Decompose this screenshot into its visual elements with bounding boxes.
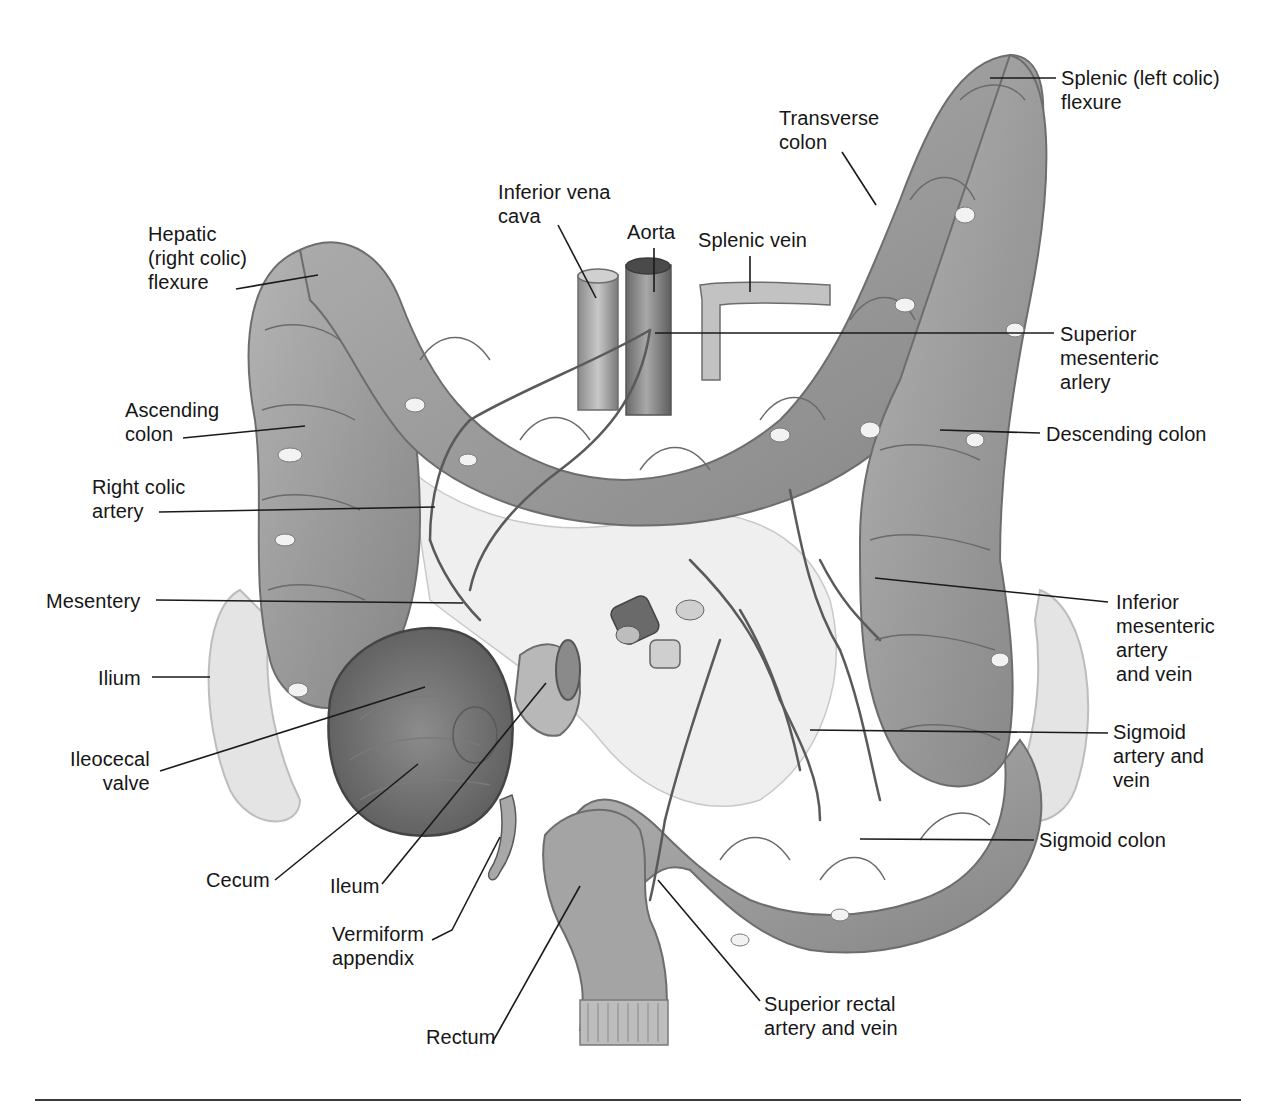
label-ilium: Ilium [98, 666, 141, 690]
leader-line-rectum [492, 886, 580, 1043]
label-aorta: Aorta [627, 220, 675, 244]
label-descending-colon: Descending colon [1046, 422, 1207, 446]
label-rectum: Rectum [426, 1025, 496, 1049]
ileum-lumen [556, 640, 580, 700]
bottom-rule [35, 1099, 1241, 1101]
label-hepatic-flexure: Hepatic (right colic) flexure [148, 222, 247, 294]
label-vermiform-appendix: Vermiform appendix [332, 922, 424, 970]
label-splenic-flexure: Splenic (left colic) flexure [1061, 66, 1220, 114]
leader-line-sigmoid-colon [860, 839, 1034, 840]
leader-line-transverse-colon [842, 152, 876, 205]
label-ileum: Ileum [330, 874, 379, 898]
label-transverse-colon: Transverse colon [779, 106, 879, 154]
label-inferior-mesenteric: Inferior mesenteric artery and vein [1116, 590, 1215, 686]
vermiform-appendix [489, 795, 516, 880]
label-right-colic-artery: Right colic artery [92, 475, 185, 523]
label-splenic-vein: Splenic vein [698, 228, 807, 252]
leader-line-inferior-vena-cava [558, 225, 596, 298]
label-inferior-vena-cava: Inferior vena cava [498, 180, 610, 228]
rectum-cut-end [580, 1000, 668, 1045]
label-sigmoid-colon: Sigmoid colon [1039, 828, 1166, 852]
label-cecum: Cecum [206, 868, 270, 892]
label-superior-rectal: Superior rectal artery and vein [764, 992, 898, 1040]
splenic-vein [700, 282, 830, 380]
large-intestine-illustration [0, 0, 1269, 1107]
label-sigmoid-artery-vein: Sigmoid artery and vein [1113, 720, 1204, 792]
label-ascending-colon: Ascending colon [125, 398, 219, 446]
cecum [328, 628, 512, 836]
leader-line-vermiform-appendix [432, 837, 500, 940]
label-superior-mesenteric-artery: Superior mesenteric arlery [1060, 322, 1159, 394]
label-mesentery: Mesentery [46, 589, 140, 613]
label-ileocecal-valve: Ileocecal valve [70, 747, 150, 795]
inferior-vena-cava [578, 275, 618, 410]
